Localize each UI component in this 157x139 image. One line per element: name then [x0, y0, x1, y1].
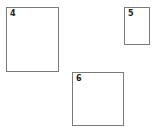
- box-4: 4: [6, 7, 59, 72]
- box-5-label: 5: [128, 10, 134, 18]
- box-6: 6: [72, 72, 124, 126]
- box-5: 5: [124, 7, 150, 45]
- box-4-label: 4: [10, 10, 16, 18]
- box-6-label: 6: [76, 75, 82, 83]
